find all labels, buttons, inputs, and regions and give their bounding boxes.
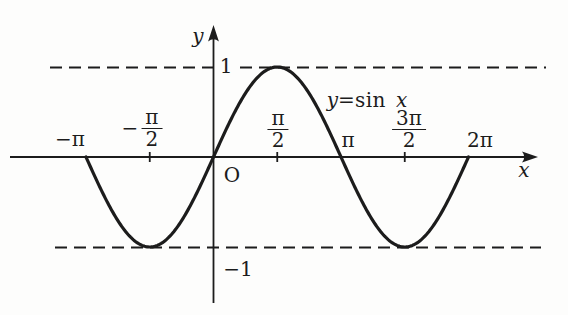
- origin-label: O: [224, 165, 240, 185]
- fraction-numerator: 3π: [392, 110, 426, 130]
- equation-function-name: sin: [355, 88, 386, 112]
- curve-equation-label: y=sinx: [327, 90, 407, 110]
- y-tick-label-1: 1: [217, 56, 236, 76]
- x-tick-label-neg-pi-over-2: − π 2: [122, 109, 163, 147]
- plot-canvas: [0, 0, 568, 315]
- fraction-numerator: π: [141, 109, 162, 129]
- sine-graph-figure: y x O 1 −1 −π − π 2 π 2 π 3π 2 2π y=sinx: [0, 0, 568, 315]
- equation-equals: =: [338, 88, 355, 112]
- fraction: π 2: [267, 110, 288, 148]
- x-tick-label-neg-pi: −π: [55, 129, 85, 149]
- x-tick-label-3pi-over-2: 3π 2: [392, 110, 426, 148]
- x-tick-label-2pi: 2π: [467, 130, 493, 150]
- y-tick-label-neg-1: −1: [223, 259, 252, 279]
- x-axis-label: x: [518, 160, 529, 180]
- equation-argument: x: [396, 88, 407, 112]
- fraction-denominator: 2: [146, 129, 159, 147]
- equation-lhs: y: [327, 88, 338, 112]
- fraction-denominator: 2: [272, 130, 285, 148]
- x-tick-label-pi: π: [341, 130, 354, 150]
- fraction-denominator: 2: [403, 130, 416, 148]
- fraction: 3π 2: [392, 110, 426, 148]
- minus-sign: −: [122, 118, 139, 138]
- fraction: π 2: [141, 109, 162, 147]
- y-axis-arrowhead-icon: [208, 25, 219, 42]
- fraction-numerator: π: [267, 110, 288, 130]
- y-axis-label: y: [192, 26, 203, 46]
- x-tick-label-pi-over-2: π 2: [267, 110, 288, 148]
